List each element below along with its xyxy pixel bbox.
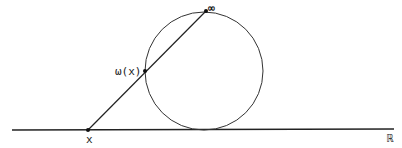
circle (145, 12, 263, 130)
diagram-canvas: x ω(x) ∞ ℝ (0, 0, 402, 148)
point-omega-x (143, 69, 147, 73)
projection-line (88, 11, 206, 130)
label-omega-x: ω(x) (115, 65, 142, 78)
label-infinity: ∞ (208, 2, 215, 15)
label-x: x (86, 133, 93, 146)
label-real-line: ℝ (387, 132, 394, 145)
point-x (86, 128, 90, 132)
